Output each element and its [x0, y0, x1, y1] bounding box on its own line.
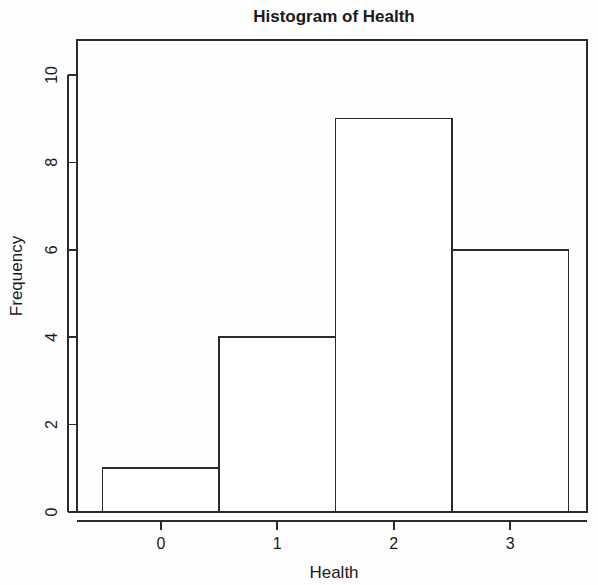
histogram-plot: Histogram of Health 0 2 4 6 8 [0, 0, 598, 585]
x-tick-label: 0 [156, 535, 165, 552]
histogram-figure: Histogram of Health 0 2 4 6 8 [0, 0, 598, 585]
y-axis-title: Frequency [7, 235, 26, 316]
y-tick-label: 10 [43, 66, 60, 84]
y-tick-label: 6 [43, 245, 60, 254]
y-tick-label: 8 [43, 158, 60, 167]
chart-title: Histogram of Health [253, 7, 415, 26]
x-axis-title: Health [309, 563, 358, 582]
y-tick-label: 0 [43, 507, 60, 516]
x-tick-label: 2 [389, 535, 398, 552]
histogram-bar [103, 468, 219, 512]
histogram-bar [335, 119, 451, 512]
histogram-bar [219, 337, 335, 512]
histogram-bar [452, 250, 568, 512]
y-tick-label: 4 [43, 333, 60, 342]
y-tick-label: 2 [43, 420, 60, 429]
x-tick-label: 3 [506, 535, 515, 552]
x-tick-label: 1 [273, 535, 282, 552]
